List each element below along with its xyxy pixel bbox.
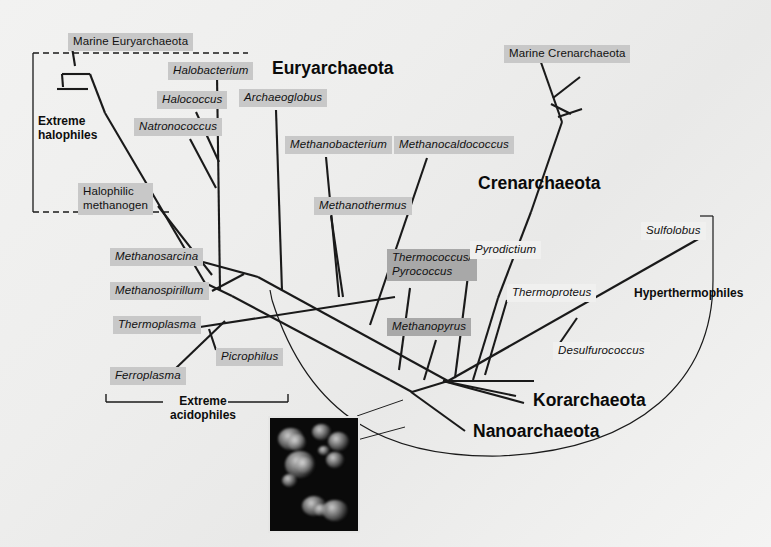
branch-marine-cren-trunk bbox=[531, 122, 562, 212]
branch-marine-cren-join bbox=[473, 298, 498, 380]
label-methanobacterium: Methanobacterium bbox=[285, 136, 392, 154]
phylogenetic-tree-figure: Marine Euryarchaeota Halobacterium Haloc… bbox=[0, 0, 771, 547]
group-title-korarchaeota: Korarchaeota bbox=[533, 390, 646, 411]
cell-blob bbox=[282, 474, 297, 487]
label-sulfolobus: Sulfolobus bbox=[641, 222, 706, 240]
tree-branches-svg bbox=[0, 0, 771, 547]
bracket-label-extreme-acidophiles: Extreme acidophiles bbox=[170, 394, 236, 422]
label-desulfurococcus: Desulfurococcus bbox=[553, 342, 650, 360]
branch-halophile-trunk-lower bbox=[205, 283, 232, 296]
branch-marine-eury-tip bbox=[90, 74, 105, 113]
branch-archaeoglobus bbox=[276, 110, 282, 291]
cell-blob bbox=[328, 432, 349, 451]
label-methanocaldococcus: Methanocaldococcus bbox=[394, 136, 514, 154]
label-ferroplasma: Ferroplasma bbox=[110, 367, 186, 385]
branch-marine-cren-a bbox=[553, 77, 580, 98]
branch-nanoarchaeota bbox=[411, 392, 465, 431]
label-marine-euryarchaeota: Marine Euryarchaeota bbox=[68, 33, 193, 51]
group-title-crenarchaeota: Crenarchaeota bbox=[478, 173, 601, 194]
label-picrophilus: Picrophilus bbox=[216, 348, 283, 366]
inset-leader-line bbox=[357, 400, 403, 416]
cell-blob bbox=[296, 457, 313, 473]
label-halococcus: Halococcus bbox=[157, 91, 227, 109]
label-methanospirillum: Methanospirillum bbox=[110, 282, 209, 300]
branch-thermoplasma bbox=[200, 297, 395, 327]
branch-central-trunk-b bbox=[232, 296, 390, 380]
branch-methanospirillum bbox=[212, 274, 244, 291]
label-archaeoglobus: Archaeoglobus bbox=[239, 89, 327, 107]
label-halophilic-methanogen: Halophilic methanogen bbox=[78, 183, 153, 215]
label-pyrodictium: Pyrodictium bbox=[470, 241, 541, 259]
label-methanothermus: Methanothermus bbox=[314, 197, 412, 215]
label-thermoplasma: Thermoplasma bbox=[113, 316, 201, 334]
label-natronococcus: Natronococcus bbox=[134, 118, 222, 136]
cell-blob bbox=[326, 452, 344, 468]
label-halobacterium: Halobacterium bbox=[168, 62, 253, 80]
cell-blob bbox=[288, 434, 306, 451]
branch-korarchaeota-c bbox=[443, 381, 516, 396]
branch-thermoproteus bbox=[485, 300, 507, 375]
label-thermococcus-pyrococcus: Thermococcus/ Pyrococcus bbox=[387, 249, 477, 281]
group-title-nanoarchaeota: Nanoarchaeota bbox=[473, 421, 599, 442]
bracket-label-extreme-halophiles: Extreme halophiles bbox=[38, 114, 97, 142]
label-methanosarcina: Methanosarcina bbox=[110, 248, 203, 266]
branch-root-link bbox=[390, 380, 412, 392]
bracket-label-hyperthermophiles: Hyperthermophiles bbox=[634, 286, 743, 300]
cell-blob bbox=[314, 504, 328, 516]
branch-marine-eury-node2 bbox=[62, 74, 63, 87]
branch-marine-cren-b bbox=[551, 104, 571, 114]
micrograph-inset bbox=[268, 416, 360, 533]
label-methanopyrus: Methanopyrus bbox=[387, 318, 471, 336]
label-marine-crenarchaeota: Marine Crenarchaeota bbox=[504, 45, 630, 63]
arc-hyperthermophiles-tail bbox=[270, 290, 272, 300]
inset-leader-line-2 bbox=[357, 427, 405, 440]
group-title-euryarchaeota: Euryarchaeota bbox=[272, 58, 394, 79]
label-thermoproteus: Thermoproteus bbox=[507, 284, 596, 302]
branch-root-link2 bbox=[412, 381, 448, 392]
